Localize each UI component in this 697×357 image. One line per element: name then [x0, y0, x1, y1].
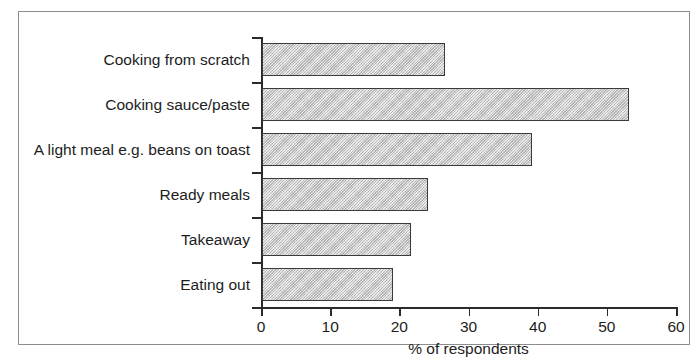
- x-tick: [399, 307, 401, 316]
- category-label: A light meal e.g. beans on toast: [34, 127, 250, 172]
- y-axis-line: [261, 37, 263, 307]
- y-tick: [252, 307, 261, 309]
- bar-ready-meals: [262, 178, 428, 211]
- y-tick: [252, 127, 261, 129]
- x-tick: [469, 307, 471, 316]
- y-tick: [252, 37, 261, 39]
- category-label: Eating out: [180, 262, 250, 307]
- y-tick: [252, 217, 261, 219]
- x-tick-label: 30: [449, 318, 489, 336]
- x-tick: [538, 307, 540, 316]
- bar-eating-out: [262, 268, 393, 301]
- y-tick: [252, 82, 261, 84]
- category-label: Ready meals: [160, 172, 250, 217]
- chart-figure: Cooking from scratch Cooking sauce/paste…: [18, 11, 690, 345]
- category-label: Takeaway: [181, 217, 250, 262]
- x-tick: [261, 307, 263, 316]
- bar-takeaway: [262, 223, 411, 256]
- x-axis-title: % of respondents: [261, 340, 676, 357]
- x-tick-label: 10: [310, 318, 350, 336]
- x-tick-label: 20: [379, 318, 419, 336]
- x-tick-label: 50: [587, 318, 627, 336]
- bar-a-light-meal: [262, 133, 532, 166]
- x-tick: [330, 307, 332, 316]
- plot-area: Cooking from scratch Cooking sauce/paste…: [261, 25, 691, 305]
- x-tick-label: 0: [241, 318, 281, 336]
- y-tick: [252, 262, 261, 264]
- bar-cooking-from-scratch: [262, 43, 445, 76]
- x-tick: [607, 307, 609, 316]
- y-tick: [252, 172, 261, 174]
- x-tick: [676, 307, 678, 316]
- x-tick-label: 40: [518, 318, 558, 336]
- category-label: Cooking sauce/paste: [105, 82, 250, 127]
- x-tick-label: 60: [656, 318, 696, 336]
- bar-cooking-sauce-paste: [262, 88, 629, 121]
- category-label: Cooking from scratch: [104, 37, 250, 82]
